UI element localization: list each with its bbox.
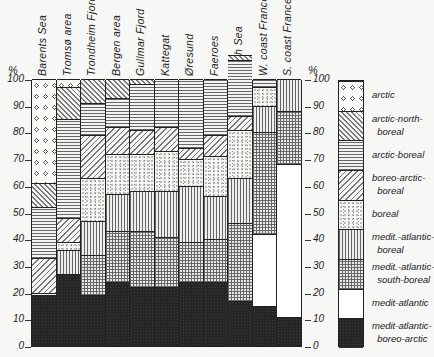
- segment-boreal: [130, 154, 154, 191]
- bar-barents-sea: [31, 80, 57, 347]
- category-label: Kattegat: [159, 34, 171, 76]
- bar-w-coast-france: [252, 80, 278, 347]
- y-tick-label-right: 50: [313, 207, 324, 218]
- segment-arctic-boreal: [228, 60, 252, 116]
- segment-medit-atlantic-south-boreal: [277, 111, 301, 164]
- y-tick-label-left: 70: [2, 153, 24, 164]
- segment-medit-atlantic-boreal: [130, 191, 154, 231]
- segment-boreo-arctic-boreal: [57, 218, 81, 242]
- y-tick-label-left: 60: [2, 180, 24, 191]
- segment-boreo-arctic-boreal: [130, 130, 154, 154]
- bar-kattegat: [154, 80, 180, 347]
- segment-medit-atlantic-boreo-arctic: [155, 287, 179, 346]
- legend-swatch-medit-atlantic-south-boreal: [339, 259, 363, 289]
- segment-medit-atlantic-boreal: [81, 221, 105, 256]
- segment-medit-atlantic-boreo-arctic: [277, 317, 301, 346]
- y-tick-mark: [305, 160, 311, 161]
- y-tick-label-left: 20: [2, 287, 24, 298]
- y-tick-label-left: 10: [2, 313, 24, 324]
- category-label: Trondheim Fjord: [85, 0, 97, 76]
- segment-medit-atlantic-south-boreal: [81, 255, 105, 295]
- y-tick-mark: [305, 107, 311, 108]
- y-tick-label-right: 40: [313, 233, 324, 244]
- segment-arctic-north-boreal: [32, 183, 56, 207]
- segment-boreo-arctic-boreal: [228, 116, 252, 129]
- y-tick-mark: [305, 80, 311, 81]
- segment-medit-atlantic-south-boreal: [204, 239, 228, 282]
- category-label: Faeroes: [208, 35, 220, 76]
- legend-swatch-medit-atlantic: [339, 289, 363, 319]
- segment-medit-atlantic-boreal: [155, 191, 179, 236]
- segment-medit-atlantic-boreo-arctic: [204, 282, 228, 346]
- bar-bergen-area: [105, 80, 131, 347]
- segment-boreal: [32, 293, 56, 296]
- bar-tromsø-area: [56, 80, 82, 347]
- segment-medit-atlantic-boreal: [179, 186, 203, 242]
- legend-swatch-column: [338, 80, 364, 347]
- segment-arctic-boreal: [130, 84, 154, 129]
- y-tick-label-left: 50: [2, 207, 24, 218]
- segment-medit-atlantic-south-boreal: [155, 237, 179, 288]
- segment-boreo-arctic-boreal: [106, 127, 130, 154]
- category-label: Barents Sea: [36, 15, 48, 76]
- segment-medit-atlantic-south-boreal: [106, 231, 130, 282]
- segment-medit-atlantic-boreal: [106, 194, 130, 231]
- segment-boreo-arctic-boreal: [179, 148, 203, 159]
- segment-medit-atlantic-boreo-arctic: [130, 287, 154, 346]
- legend-label-medit-atlantic-boreal: medit.-atlantic- boreal: [372, 230, 434, 256]
- legend-label-boreal: boreal: [372, 207, 398, 220]
- bar-trondheim-fjord: [80, 80, 106, 347]
- y-tick-label-right: 0: [313, 340, 319, 351]
- segment-arctic-north-boreal: [130, 79, 154, 84]
- legend-label-boreo-arctic-boreal: boreo-arctic- boreal: [372, 171, 425, 197]
- segment-medit-atlantic-boreo-arctic: [81, 295, 105, 346]
- segment-arctic-north-boreal: [81, 79, 105, 103]
- segment-medit-atlantic: [253, 234, 277, 306]
- segment-medit-atlantic-boreo-arctic: [253, 306, 277, 346]
- legend-label-arctic: arctic: [372, 88, 395, 101]
- y-tick-label-left: 0: [2, 340, 24, 351]
- legend-label-arctic-north-boreal: arctic-north- boreal: [372, 112, 423, 138]
- segment-arctic-boreal: [253, 79, 277, 87]
- segment-medit-atlantic-boreo-arctic: [32, 295, 56, 346]
- y-tick-mark: [305, 240, 311, 241]
- category-label: Gullmar Fjord: [134, 9, 146, 77]
- y-tick-mark: [305, 320, 311, 321]
- legend-swatch-medit-atlantic-boreo-arctic: [339, 318, 363, 348]
- segment-boreal: [204, 156, 228, 196]
- legend-swatch-boreo-arctic-boreal: [339, 170, 363, 200]
- y-tick-label-left: 40: [2, 233, 24, 244]
- legend-label-medit-atlantic: medit-atlantic: [372, 296, 429, 309]
- segment-boreal: [81, 178, 105, 221]
- segment-arctic-boreal: [81, 103, 105, 135]
- segment-medit-atlantic-boreo-arctic: [228, 301, 252, 346]
- y-tick-label-right: 10: [313, 313, 324, 324]
- segment-boreal: [253, 87, 277, 106]
- legend-swatch-arctic-north-boreal: [339, 111, 363, 141]
- y-tick-label-left: 90: [2, 100, 24, 111]
- y-tick-label-right: 20: [313, 287, 324, 298]
- segment-arctic-boreal: [32, 207, 56, 258]
- segment-medit-atlantic-boreal: [253, 106, 277, 133]
- y-tick-mark: [305, 294, 311, 295]
- legend-swatch-arctic: [339, 81, 363, 111]
- segment-medit-atlantic-boreal: [204, 196, 228, 239]
- segment-boreal: [228, 130, 252, 178]
- segment-arctic-boreal: [155, 79, 179, 127]
- y-tick-label-right: 80: [313, 126, 324, 137]
- category-label: Tromsø area: [61, 13, 73, 76]
- segment-arctic-boreal: [106, 98, 130, 127]
- bar-faeroes: [203, 80, 229, 347]
- y-tick-mark: [305, 267, 311, 268]
- segment-arctic-boreal: [204, 79, 228, 135]
- y-tick-label-right: 60: [313, 180, 324, 191]
- y-tick-label-right: 90: [313, 100, 324, 111]
- y-tick-label-left: 100: [2, 73, 24, 84]
- segment-medit-atlantic-south-boreal: [179, 242, 203, 282]
- segment-boreal: [57, 242, 81, 250]
- y-tick-mark: [25, 347, 31, 348]
- y-tick-mark: [305, 187, 311, 188]
- y-tick-label-left: 80: [2, 126, 24, 137]
- y-tick-mark: [305, 214, 311, 215]
- segment-boreo-arctic-boreal: [155, 127, 179, 151]
